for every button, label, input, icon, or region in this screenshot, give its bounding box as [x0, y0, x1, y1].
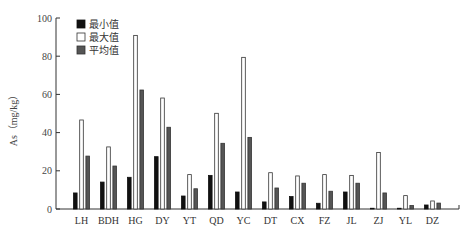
mean-value-bar [329, 191, 333, 209]
x-category-label: BDH [98, 215, 119, 226]
bar-group-hg [128, 35, 144, 209]
x-category-label: YT [183, 215, 196, 226]
max-value-bar [350, 175, 354, 209]
bar-group-qd [209, 113, 225, 209]
max-value-bar [377, 152, 381, 209]
min-value-bar [398, 208, 402, 209]
x-category-label: DY [155, 215, 169, 226]
bar-group-yl [398, 196, 414, 209]
max-value-bar [107, 147, 111, 209]
bar-group-yt [182, 175, 198, 209]
mean-value-bar [275, 188, 279, 209]
legend-item-min: 最小值 [77, 18, 119, 30]
max-value-bar [134, 35, 138, 209]
mean-value-bar [248, 137, 252, 209]
max-value-bar [80, 120, 84, 209]
mean-value-bar [221, 143, 225, 209]
max-value-bar [404, 196, 408, 209]
legend: 最小值最大值平均值 [77, 18, 119, 56]
legend-label: 平均值 [89, 44, 119, 56]
x-category-label: YL [399, 215, 412, 226]
legend-swatch [77, 46, 85, 54]
mean-value-bar [302, 183, 306, 209]
bar-group-fz [317, 175, 333, 209]
mean-value-bar [410, 206, 414, 209]
min-value-bar [425, 205, 429, 209]
bar-group-lh [74, 120, 90, 209]
y-tick-label: 80 [42, 51, 52, 62]
bar-group-cx [290, 176, 306, 209]
x-category-label: YC [237, 215, 251, 226]
x-category-label: QD [209, 215, 223, 226]
min-value-bar [263, 202, 267, 209]
max-value-bar [188, 175, 192, 209]
x-category-label: ZJ [374, 215, 384, 226]
min-value-bar [371, 208, 375, 209]
max-value-bar [242, 57, 246, 209]
y-axis-title: As（mg/kg） [8, 90, 19, 147]
legend-label: 最大值 [89, 31, 119, 43]
min-value-bar [101, 182, 105, 209]
bar-group-yc [236, 57, 252, 209]
x-category-label: CX [291, 215, 306, 226]
y-tick-label: 100 [37, 13, 52, 24]
max-value-bar [431, 201, 435, 209]
bar-group-jl [344, 175, 360, 209]
x-category-label: LH [75, 215, 88, 226]
mean-value-bar [383, 193, 387, 209]
x-category-label: DT [264, 215, 277, 226]
legend-swatch [77, 33, 85, 41]
y-tick-label: 60 [42, 89, 52, 100]
mean-value-bar [356, 183, 360, 209]
bar-group-bdh [101, 147, 117, 209]
mean-value-bar [140, 90, 144, 209]
bar-group-dz [425, 201, 441, 209]
min-value-bar [155, 157, 159, 209]
min-value-bar [236, 192, 240, 209]
legend-item-mean: 平均值 [77, 44, 119, 56]
min-value-bar [290, 197, 294, 209]
legend-label: 最小值 [89, 18, 119, 30]
mean-value-bar [113, 166, 117, 209]
max-value-bar [296, 176, 300, 209]
x-category-label: FZ [319, 215, 331, 226]
max-value-bar [323, 175, 327, 209]
bar-chart: 020406080100 LHBDHHGDYYTQDYCDTCXFZJLZJYL… [0, 0, 475, 232]
max-value-bar [161, 98, 165, 209]
max-value-bar [269, 173, 273, 209]
y-tick-label: 20 [42, 165, 52, 176]
mean-value-bar [167, 127, 171, 209]
min-value-bar [317, 203, 321, 209]
mean-value-bar [194, 189, 198, 209]
mean-value-bar [437, 203, 441, 209]
y-tick-label: 0 [47, 204, 52, 215]
x-category-label: DZ [426, 215, 439, 226]
bars [74, 35, 441, 209]
bar-group-dt [263, 173, 279, 209]
legend-swatch [77, 20, 85, 28]
bar-group-zj [371, 152, 387, 209]
min-value-bar [344, 192, 348, 209]
x-category-label: HG [128, 215, 142, 226]
y-axis: 020406080100 [37, 13, 60, 215]
x-category-label: JL [347, 215, 357, 226]
min-value-bar [128, 177, 132, 209]
max-value-bar [215, 113, 219, 209]
bar-group-dy [155, 98, 171, 209]
min-value-bar [209, 175, 213, 209]
y-tick-label: 40 [42, 127, 52, 138]
min-value-bar [74, 193, 78, 209]
legend-item-max: 最大值 [77, 31, 119, 43]
min-value-bar [182, 196, 186, 209]
mean-value-bar [86, 156, 90, 209]
